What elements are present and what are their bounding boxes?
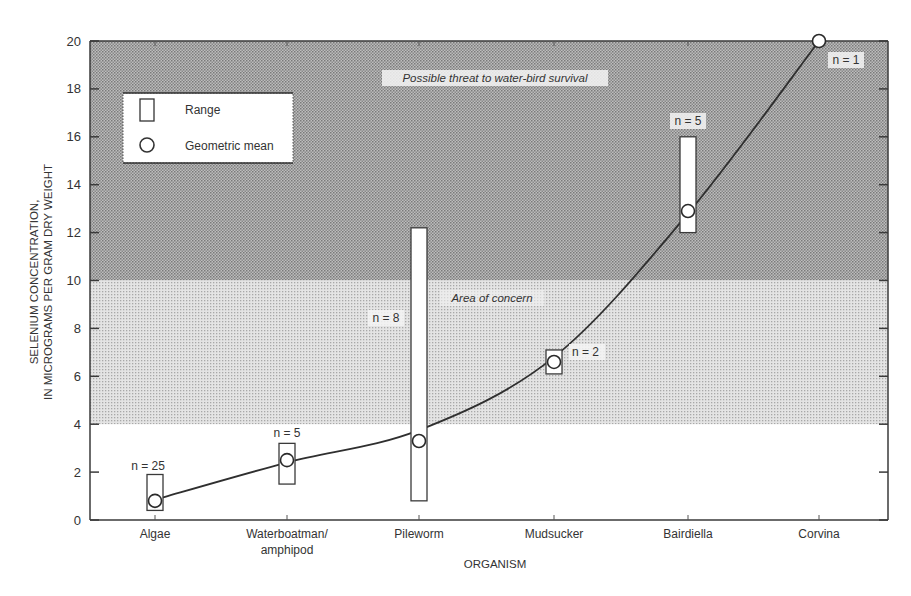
y-tick-label: 6 — [74, 369, 81, 384]
range-box — [411, 228, 427, 501]
geometric-mean-marker — [682, 205, 695, 218]
y-axis-title: SELENIUM CONCENTRATION,IN MICROGRAMS PER… — [28, 164, 54, 400]
category-label: Waterboatman/ — [246, 527, 328, 541]
legend-range-icon — [140, 99, 154, 121]
geometric-mean-marker — [813, 35, 826, 48]
sample-size-label: n = 5 — [674, 114, 701, 128]
y-tick-label: 10 — [67, 273, 81, 288]
category-label: Algae — [140, 527, 171, 541]
sample-size-label: n = 2 — [572, 345, 599, 359]
geometric-mean-marker — [281, 454, 294, 467]
geometric-mean-marker — [548, 355, 561, 368]
category-label: Bairdiella — [663, 527, 713, 541]
y-tick-label: 2 — [74, 465, 81, 480]
category-label: Corvina — [798, 527, 840, 541]
threat-region-label: Possible threat to water-bird survival — [402, 72, 588, 84]
sample-size-label: n = 25 — [131, 459, 165, 473]
y-tick-label: 20 — [67, 34, 81, 49]
y-tick-label: 16 — [67, 129, 81, 144]
sample-size-label: n = 1 — [832, 53, 859, 67]
y-tick-label: 8 — [74, 321, 81, 336]
category-label: Pileworm — [394, 527, 443, 541]
geometric-mean-marker — [149, 494, 162, 507]
x-axis-title: ORGANISM — [464, 558, 527, 570]
selenium-chart: 02468101214161820 AlgaeWaterboatman/amph… — [0, 0, 911, 596]
y-tick-label: 18 — [67, 81, 81, 96]
legend-circle-icon — [140, 138, 154, 152]
sample-size-label: n = 8 — [372, 311, 399, 325]
sample-size-label: n = 5 — [273, 426, 300, 440]
legend-mean-label: Geometric mean — [185, 139, 274, 153]
category-label: amphipod — [261, 543, 314, 557]
geometric-mean-marker — [413, 434, 426, 447]
y-tick-label: 4 — [74, 417, 81, 432]
legend: RangeGeometric mean — [123, 93, 293, 163]
y-tick-label: 0 — [74, 513, 81, 528]
category-label: Mudsucker — [525, 527, 584, 541]
legend-range-label: Range — [185, 103, 221, 117]
y-tick-label: 14 — [67, 177, 81, 192]
concern-region-label: Area of concern — [450, 292, 532, 304]
y-tick-label: 12 — [67, 225, 81, 240]
